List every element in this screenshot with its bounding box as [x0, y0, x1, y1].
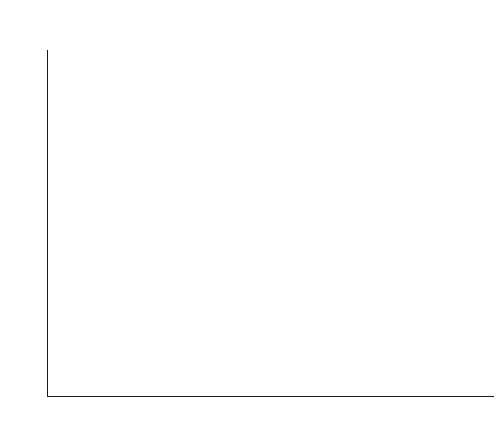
chart-figure — [0, 0, 502, 428]
x-axis-line — [47, 396, 494, 397]
plot-area — [47, 50, 494, 396]
